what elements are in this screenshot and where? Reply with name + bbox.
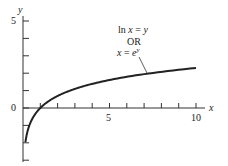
x-tick-label-5: 5 xyxy=(106,112,111,123)
y-tick-label-5: 5 xyxy=(11,15,16,26)
annotation-line-3: x = ey xyxy=(116,46,141,58)
y-tick-label-0: 0 xyxy=(11,102,16,113)
x-tick-label-10: 10 xyxy=(191,112,201,123)
chart: y x 5 0 5 10 ln x = y OR x = ey xyxy=(0,0,228,166)
annotation-line-1: ln x = y xyxy=(118,24,148,35)
y-axis-label: y xyxy=(17,4,23,15)
ln-curve xyxy=(25,68,196,142)
axes xyxy=(23,16,205,162)
x-axis-label: x xyxy=(208,102,214,113)
annotation-leader xyxy=(139,57,147,73)
x-ticks xyxy=(40,103,196,108)
